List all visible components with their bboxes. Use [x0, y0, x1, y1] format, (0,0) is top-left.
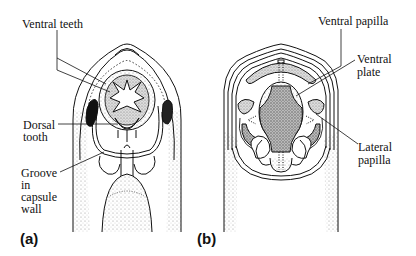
label-ventral-papilla: Ventral papilla	[318, 15, 388, 28]
panel-a-drawing	[73, 44, 181, 232]
diagram-drawings	[0, 0, 416, 256]
label-ventral-plate-line2: plate	[357, 66, 380, 79]
panel-b-drawing	[224, 44, 339, 232]
label-ventral-teeth: Ventral teeth	[22, 18, 83, 31]
label-groove-line4: wall	[21, 203, 42, 216]
label-dorsal-tooth-line2: tooth	[23, 131, 48, 144]
panel-label-b: (b)	[197, 230, 216, 247]
label-lateral-papilla-line2: papilla	[358, 154, 391, 167]
panel-label-a: (a)	[20, 230, 38, 247]
